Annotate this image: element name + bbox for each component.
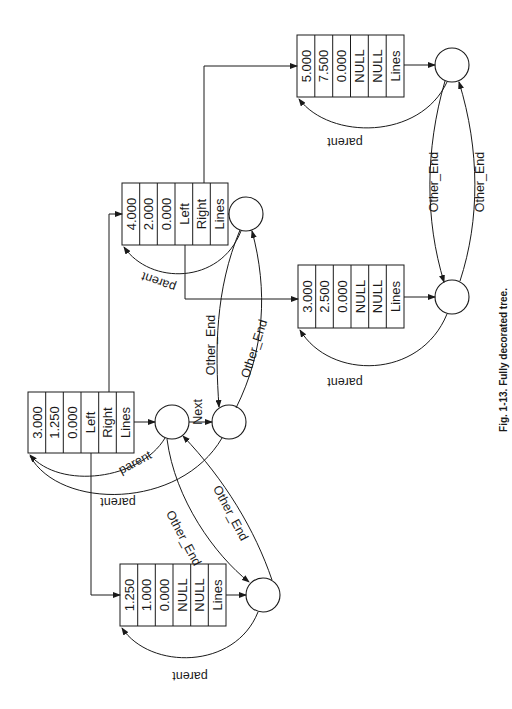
parent-pointers (30, 82, 447, 658)
rl-leaf-cell-lines: Lines (388, 280, 403, 312)
other-end-label-low-1: Other_End (163, 508, 204, 568)
right-child-line-end (229, 197, 263, 231)
root-cell-right: Right (100, 407, 115, 438)
line-end-nodes (155, 48, 469, 612)
rr-leaf-cell-x: 5.000 (299, 50, 314, 83)
root-line-end-a (155, 405, 189, 439)
rr-leaf-cell-z: 0.000 (334, 50, 349, 83)
rl-leaf-cell-y: 2.500 (317, 280, 332, 313)
right-child-cell-left: Left (177, 203, 192, 225)
left-child-cell-z: 0.000 (157, 579, 172, 612)
left-child-line-end (246, 578, 280, 612)
other-end-label-mid-2: Other_End (238, 318, 270, 380)
right-child-cell-lines: Lines (212, 198, 227, 230)
figure-caption: Fig. 1-13. Fully decorated tree. (498, 288, 509, 432)
parent-label-left-child: parent (172, 669, 208, 683)
next-label: Next (191, 399, 205, 425)
right-left-leaf-box: 3.000 2.500 0.000 NULL NULL Lines (298, 265, 404, 328)
rr-leaf-cell-y: 7.500 (316, 50, 331, 83)
decorated-tree-diagram: 3.000 1.250 0.000 Left Right Lines 4.000… (0, 0, 512, 709)
rl-leaf-line-end (435, 280, 469, 314)
right-child-node-box: 4.000 2.000 0.000 Left Right Lines (122, 183, 228, 245)
rr-leaf-cell-right: NULL (370, 49, 385, 82)
root-cell-y: 1.250 (47, 406, 62, 439)
root-node-box: 3.000 1.250 0.000 Left Right Lines (28, 392, 134, 453)
parent-label-rr: parent (327, 135, 363, 149)
right-child-cell-x: 4.000 (124, 198, 139, 231)
other-end-label-rr-1: Other_End (427, 152, 441, 213)
rl-leaf-cell-right: NULL (370, 280, 385, 313)
left-child-cell-left: NULL (175, 578, 190, 611)
rr-leaf-line-end (435, 48, 469, 82)
left-child-cell-lines: Lines (210, 579, 225, 611)
rl-leaf-cell-left: NULL (353, 280, 368, 313)
root-cell-x: 3.000 (30, 406, 45, 439)
left-child-cell-x: 1.250 (122, 579, 137, 612)
right-child-cell-right: Right (194, 198, 209, 229)
left-child-cell-y: 1.000 (139, 579, 154, 612)
other-end-label-mid-1: Other_End (204, 315, 218, 376)
root-cell-left: Left (83, 411, 98, 433)
left-child-node-box: 1.250 1.000 0.000 NULL NULL Lines (120, 564, 226, 626)
right-child-cell-z: 0.000 (159, 198, 174, 231)
rr-leaf-cell-lines: Lines (388, 50, 403, 82)
parent-label-right-child: parent (139, 269, 178, 294)
root-cell-lines: Lines (118, 406, 133, 438)
parent-label-rl: parent (327, 375, 363, 389)
right-child-cell-y: 2.000 (141, 198, 156, 231)
right-right-leaf-box: 5.000 7.500 0.000 NULL NULL Lines (297, 35, 404, 97)
other-end-label-low-2: Other_End (210, 483, 251, 543)
left-child-cell-right: NULL (192, 578, 207, 611)
parent-label-root-b: parent (100, 495, 136, 509)
rl-leaf-cell-x: 3.000 (300, 280, 315, 313)
rl-leaf-cell-z: 0.000 (335, 280, 350, 313)
root-cell-z: 0.000 (65, 406, 80, 439)
other-end-label-rr-2: Other_End (473, 152, 487, 213)
rr-leaf-cell-left: NULL (352, 49, 367, 82)
root-line-end-b (212, 405, 246, 439)
